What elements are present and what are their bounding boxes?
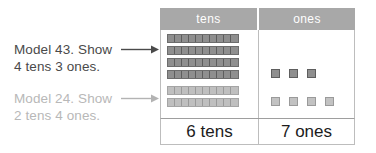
table-body-row — [160, 30, 355, 118]
arrow-right-icon-2 — [121, 90, 161, 101]
place-value-table: tens ones — [160, 8, 355, 145]
rod-unit — [182, 87, 189, 94]
rod-unit — [203, 47, 210, 54]
tens-rod[interactable] — [167, 70, 239, 79]
rod-unit — [224, 71, 231, 78]
rod-unit — [168, 35, 175, 42]
tens-rod[interactable] — [167, 34, 239, 43]
rod-unit — [168, 47, 175, 54]
rod-unit — [196, 71, 203, 78]
rod-unit — [175, 71, 182, 78]
rod-unit — [182, 59, 189, 66]
instructions-panel: Model 43. Show 4 tens 3 ones. Model 24. … — [0, 0, 160, 153]
rod-unit — [203, 87, 210, 94]
rod-unit — [175, 35, 182, 42]
ones-units-group-light — [271, 97, 334, 106]
ones-units-group-dark — [271, 69, 316, 78]
table-footer-row: 6 tens 7 ones — [160, 118, 355, 145]
ones-unit[interactable] — [307, 97, 316, 106]
rod-unit — [196, 35, 203, 42]
rod-unit — [231, 71, 238, 78]
tens-rod[interactable] — [167, 86, 239, 95]
ones-unit[interactable] — [289, 69, 298, 78]
rod-unit — [189, 59, 196, 66]
column-header-ones: ones — [259, 8, 355, 30]
rod-unit — [175, 59, 182, 66]
cell-tens-blocks[interactable] — [161, 30, 259, 118]
rod-unit — [168, 59, 175, 66]
rod-unit — [175, 47, 182, 54]
rod-unit — [231, 99, 238, 106]
rod-unit — [217, 35, 224, 42]
column-header-tens: tens — [160, 8, 259, 30]
rod-unit — [210, 87, 217, 94]
tens-rods-group — [167, 34, 239, 110]
rod-unit — [231, 59, 238, 66]
rod-unit — [210, 99, 217, 106]
rod-unit — [182, 99, 189, 106]
rod-unit — [224, 47, 231, 54]
rod-unit — [224, 59, 231, 66]
rod-unit — [203, 71, 210, 78]
ones-unit[interactable] — [271, 69, 280, 78]
table-header-row: tens ones — [160, 8, 355, 30]
tens-rod[interactable] — [167, 98, 239, 107]
rod-unit — [217, 99, 224, 106]
rod-unit — [203, 35, 210, 42]
total-ones: 7 ones — [259, 119, 354, 144]
ones-unit[interactable] — [289, 97, 298, 106]
rod-unit — [210, 71, 217, 78]
rod-unit — [224, 99, 231, 106]
ones-unit[interactable] — [271, 97, 280, 106]
rod-unit — [175, 99, 182, 106]
rod-unit — [168, 87, 175, 94]
rod-unit — [224, 87, 231, 94]
cell-ones-blocks[interactable] — [259, 30, 354, 118]
rod-unit — [189, 99, 196, 106]
rod-unit — [189, 35, 196, 42]
rod-unit — [217, 47, 224, 54]
tens-rod[interactable] — [167, 58, 239, 67]
rod-unit — [189, 87, 196, 94]
rod-unit — [210, 47, 217, 54]
total-tens: 6 tens — [161, 119, 259, 144]
rod-unit — [182, 47, 189, 54]
tens-rod[interactable] — [167, 46, 239, 55]
rod-unit — [210, 59, 217, 66]
rod-unit — [175, 87, 182, 94]
rod-unit — [203, 99, 210, 106]
rod-unit — [224, 35, 231, 42]
rod-unit — [182, 71, 189, 78]
ones-unit[interactable] — [325, 97, 334, 106]
rod-unit — [196, 59, 203, 66]
ones-unit[interactable] — [307, 69, 316, 78]
rod-unit — [217, 87, 224, 94]
rod-unit — [231, 87, 238, 94]
rod-unit — [182, 35, 189, 42]
rod-unit — [168, 99, 175, 106]
rod-unit — [231, 35, 238, 42]
arrow-right-icon-1 — [121, 41, 161, 52]
rod-unit — [189, 71, 196, 78]
rod-unit — [196, 47, 203, 54]
rod-unit — [210, 35, 217, 42]
rod-unit — [217, 59, 224, 66]
rod-unit — [231, 47, 238, 54]
rod-unit — [168, 71, 175, 78]
rod-unit — [196, 99, 203, 106]
rod-unit — [217, 71, 224, 78]
rod-unit — [196, 87, 203, 94]
rod-unit — [203, 59, 210, 66]
rod-unit — [189, 47, 196, 54]
